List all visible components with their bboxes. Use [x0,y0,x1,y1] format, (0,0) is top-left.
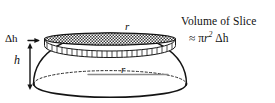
annotation-block: Volume of Slice ≈ πr2 Δh [181,15,273,45]
height-label: h [14,54,20,66]
base-ellipse-front-solid [34,84,186,97]
delta-h-arrow [28,38,40,43]
formula-prefix: ≈ π [189,32,204,44]
hemisphere-slice-diagram: Δh h r r Volume of Slice ≈ πr2 Δh [0,0,275,103]
annotation-formula: ≈ πr2 Δh [181,30,273,45]
delta-h-label: Δh [5,33,18,44]
slice-radius-label: r [125,21,129,32]
formula-suffix: Δh [215,32,228,44]
base-radius-label: r [121,64,125,75]
h-arrow [27,43,32,90]
slice-top-ellipse [45,33,176,45]
annotation-title: Volume of Slice [181,15,273,28]
